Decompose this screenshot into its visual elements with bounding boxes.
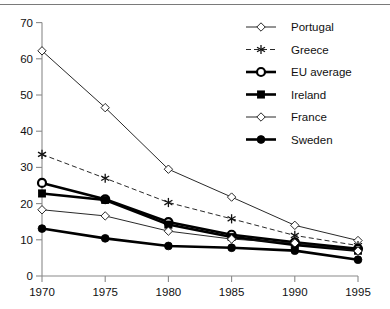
y-tick-label-50: 50: [20, 89, 33, 101]
chart-page: 010203040506070 197019751980198519901995…: [0, 0, 390, 309]
data-point-eu-average-1970: [38, 179, 46, 187]
data-point-greece-1980: [164, 198, 172, 207]
legend-marker-eu-average: [257, 68, 265, 76]
x-tick-label-1985: 1985: [219, 286, 245, 298]
y-tick-label-60: 60: [20, 53, 33, 65]
data-point-sweden-1975: [101, 234, 109, 242]
chart-svg: 010203040506070 197019751980198519901995…: [0, 0, 390, 309]
y-tick-label-0: 0: [27, 270, 33, 282]
series-eu-average: [38, 179, 362, 253]
series-line-eu-average: [42, 183, 358, 249]
legend-label-sweden: Sweden: [291, 134, 333, 146]
legend-marker-sweden: [257, 136, 265, 144]
data-point-ireland-1970: [38, 190, 45, 197]
data-point-sweden-1985: [228, 244, 236, 252]
data-point-sweden-1970: [38, 225, 46, 233]
legend-marker-ireland: [257, 91, 264, 98]
legend-item-sweden[interactable]: Sweden: [246, 134, 333, 146]
x-tick-label-1980: 1980: [156, 286, 182, 298]
legend-marker-portugal: [257, 23, 265, 31]
data-point-ireland-1975: [102, 196, 109, 203]
series-line-ireland: [42, 193, 358, 250]
y-tick-label-40: 40: [20, 125, 33, 137]
data-point-sweden-1980: [165, 242, 173, 250]
x-axis-ticks: [42, 276, 358, 282]
data-point-portugal-1985: [227, 193, 235, 201]
data-point-sweden-1990: [291, 247, 299, 255]
data-point-france-1970: [38, 206, 46, 214]
x-tick-label-1990: 1990: [282, 286, 308, 298]
line-chart: 010203040506070 197019751980198519901995…: [0, 0, 390, 309]
legend-marker-france: [257, 113, 265, 121]
series-layer: [38, 47, 362, 264]
y-tick-label-70: 70: [20, 17, 33, 29]
x-axis-tick-labels: 197019751980198519901995: [29, 286, 371, 298]
legend-label-france: France: [291, 111, 327, 123]
legend-label-eu-average: EU average: [291, 66, 352, 78]
y-axis-tick-labels: 010203040506070: [20, 17, 33, 282]
data-point-france-1975: [101, 212, 109, 220]
data-point-greece-1985: [228, 214, 236, 223]
data-point-greece-1970: [38, 150, 46, 159]
legend-item-eu-average[interactable]: EU average: [246, 66, 352, 78]
legend-label-greece: Greece: [291, 44, 329, 56]
data-point-sweden-1995: [354, 256, 362, 264]
series-line-portugal: [42, 51, 358, 241]
legend-item-portugal[interactable]: Portugal: [246, 21, 334, 33]
legend-item-ireland[interactable]: Ireland: [246, 89, 326, 101]
legend-label-portugal: Portugal: [291, 21, 334, 33]
data-point-greece-1975: [101, 174, 109, 183]
y-tick-label-10: 10: [20, 234, 33, 246]
chart-legend: PortugalGreeceEU averageIrelandFranceSwe…: [246, 21, 352, 146]
x-tick-label-1995: 1995: [345, 286, 371, 298]
x-tick-label-1975: 1975: [92, 286, 118, 298]
y-axis-ticks: [36, 23, 42, 276]
y-tick-label-30: 30: [20, 161, 33, 173]
x-tick-label-1970: 1970: [29, 286, 55, 298]
data-point-portugal-1990: [291, 221, 299, 229]
legend-label-ireland: Ireland: [291, 89, 326, 101]
legend-item-france[interactable]: France: [246, 111, 327, 123]
y-tick-label-20: 20: [20, 198, 33, 210]
legend-item-greece[interactable]: Greece: [246, 44, 329, 56]
